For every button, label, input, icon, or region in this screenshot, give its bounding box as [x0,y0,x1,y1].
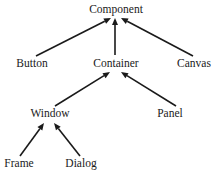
node-container: Container [93,57,139,69]
node-canvas: Canvas [177,57,211,69]
edge-dialog-to-window [58,128,80,156]
node-component: Component [89,3,143,16]
node-panel: Panel [157,107,183,119]
node-window: Window [30,107,70,119]
class-hierarchy-diagram: Component Button Container Canvas Window… [0,0,214,173]
edge-canvas-to-component [127,21,193,56]
arrowhead-icon [112,18,118,25]
node-dialog: Dialog [65,157,97,170]
node-frame: Frame [4,157,33,169]
edges-layer [20,18,193,156]
edge-panel-to-container [127,76,176,106]
node-button: Button [16,57,48,69]
edge-frame-to-window [20,129,40,156]
edge-window-to-container [55,76,104,106]
edge-button-to-component [36,21,105,56]
